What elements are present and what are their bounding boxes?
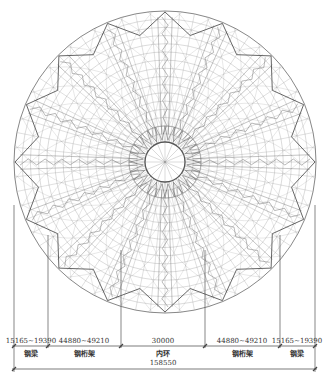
dimension-labels: 15165~19390 钢梁 44880~49210 钢桁架 30000 内环 … <box>6 337 322 367</box>
dim-value-3: 30000 <box>152 337 174 345</box>
dim-value-2: 44880~49210 <box>59 337 109 345</box>
dim-label-1: 钢梁 <box>24 349 39 358</box>
dim-value-5: 15165~19390 <box>272 337 322 345</box>
dim-total: 158550 <box>150 359 177 367</box>
dim-value-4: 44880~49210 <box>217 337 267 345</box>
dim-label-4: 钢桁架 <box>232 349 253 358</box>
dim-value-1: 15165~19390 <box>6 337 56 345</box>
dome-structure <box>14 11 316 313</box>
dim-label-2: 钢桁架 <box>74 349 95 358</box>
dim-label-5: 钢梁 <box>290 349 305 358</box>
dome-plan-diagram: 15165~19390 钢梁 44880~49210 钢桁架 30000 内环 … <box>0 0 329 383</box>
dim-label-3: 内环 <box>156 349 170 358</box>
